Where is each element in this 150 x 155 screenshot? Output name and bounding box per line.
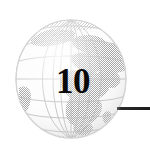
chapter-rule	[117, 107, 150, 110]
chapter-opener-page: 10	[0, 0, 150, 155]
chapter-number: 10	[56, 62, 100, 102]
